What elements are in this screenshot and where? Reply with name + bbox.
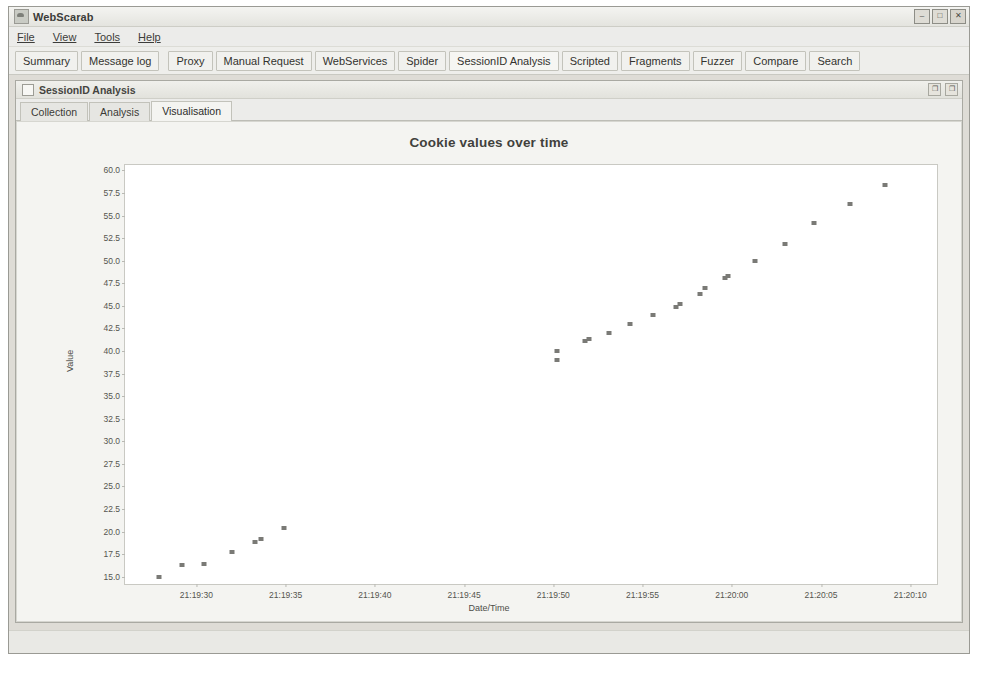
data-point [258,537,263,541]
data-point [697,292,702,296]
data-point [752,259,757,263]
tab-search[interactable]: Search [809,51,860,71]
y-axis-tick: 42.5 [103,323,120,333]
chart-panel: Cookie values over time Value Date/Time … [16,121,962,622]
x-axis-tick: 21:19:55 [626,590,659,600]
x-axis-tick: 21:19:40 [358,590,391,600]
y-axis-tick: 17.5 [103,549,120,559]
window-controls: – □ ✕ [914,9,966,24]
y-axis-tick: 15.0 [103,572,120,582]
tab-fuzzer[interactable]: Fuzzer [693,51,743,71]
internal-frame-title-bar: SessionID Analysis ❐ ❐ [16,81,962,99]
x-axis-tick: 21:20:10 [894,590,927,600]
frame-icon [22,84,34,96]
y-axis-tick: 60.0 [103,165,120,175]
y-axis-tick: 27.5 [103,459,120,469]
data-point [726,274,731,278]
y-axis-tick: 25.0 [103,481,120,491]
menu-bar: File View Tools Help [9,27,969,47]
data-point [606,331,611,335]
title-bar: WebScarab – □ ✕ [9,7,969,27]
x-axis-tick: 21:19:50 [537,590,570,600]
tab-proxy[interactable]: Proxy [168,51,212,71]
data-point [628,322,633,326]
frame-maximize-button[interactable]: ❐ [945,83,958,96]
x-axis-tick: 21:20:00 [715,590,748,600]
data-point [554,358,559,362]
data-point [703,286,708,290]
menu-file-label: File [17,31,35,43]
internal-frame-title: SessionID Analysis [39,84,135,96]
tab-fragments[interactable]: Fragments [621,51,690,71]
tab-spider[interactable]: Spider [398,51,446,71]
y-axis-tick: 50.0 [103,256,120,266]
data-point [230,550,235,554]
chart-title: Cookie values over time [17,135,961,150]
tab-scripted[interactable]: Scripted [562,51,618,71]
minimize-button[interactable]: – [914,9,930,24]
data-point [651,313,656,317]
data-point [180,563,185,567]
y-axis-tick: 40.0 [103,346,120,356]
data-point [811,221,816,225]
y-axis-tick: 20.0 [103,527,120,537]
menu-help-label: Help [138,31,161,43]
x-axis-tick: 21:19:35 [269,590,302,600]
data-point [253,540,258,544]
tab-message-log[interactable]: Message log [81,51,159,71]
subtab-analysis[interactable]: Analysis [89,102,150,121]
y-axis-tick: 52.5 [103,233,120,243]
data-point [201,562,206,566]
tab-sessionid-analysis[interactable]: SessionID Analysis [449,51,559,71]
menu-help[interactable]: Help [136,30,163,44]
close-button[interactable]: ✕ [950,9,966,24]
screen: WebScarab – □ ✕ File View Tools Help Sum [0,0,985,688]
menu-tools[interactable]: Tools [92,30,122,44]
window-title: WebScarab [33,11,94,23]
x-axis-tick: 21:20:05 [804,590,837,600]
y-axis-label: Value [65,350,75,372]
main-tab-strip: Summary Message log Proxy Manual Request… [9,47,969,75]
data-point [156,575,161,579]
menu-view-label: View [53,31,77,43]
tab-compare[interactable]: Compare [745,51,806,71]
data-point [847,202,852,206]
x-axis-tick: 21:19:45 [448,590,481,600]
data-point [678,302,683,306]
y-axis-tick: 57.5 [103,188,120,198]
subtab-visualisation[interactable]: Visualisation [151,101,232,121]
data-point [587,337,592,341]
y-axis-tick: 47.5 [103,278,120,288]
y-axis-tick: 30.0 [103,436,120,446]
y-axis-tick: 55.0 [103,211,120,221]
desktop-pane: SessionID Analysis ❐ ❐ Collection Analys… [9,75,969,630]
x-axis-label: Date/Time [17,603,961,613]
menu-view[interactable]: View [51,30,79,44]
tab-summary[interactable]: Summary [15,51,78,71]
maximize-button[interactable]: □ [932,9,948,24]
menu-tools-label: Tools [94,31,120,43]
menu-file[interactable]: File [15,30,37,44]
internal-frame-controls: ❐ ❐ [928,83,958,96]
status-bar [9,630,969,653]
data-point [783,242,788,246]
tab-webservices[interactable]: WebServices [315,51,396,71]
sub-tab-strip: Collection Analysis Visualisation [16,99,962,121]
plot-area: 60.057.555.052.550.047.545.042.540.037.5… [124,164,938,585]
subtab-collection[interactable]: Collection [20,102,88,121]
x-axis-tick: 21:19:30 [180,590,213,600]
y-axis-tick: 22.5 [103,504,120,514]
application-window: WebScarab – □ ✕ File View Tools Help Sum [8,6,970,654]
tab-manual-request[interactable]: Manual Request [216,51,312,71]
scarab-icon [14,9,29,24]
y-axis-tick: 35.0 [103,391,120,401]
frame-restore-button[interactable]: ❐ [928,83,941,96]
minimize-icon: – [915,10,929,23]
close-icon: ✕ [951,10,965,23]
y-axis-tick: 32.5 [103,414,120,424]
maximize-icon: □ [933,10,947,23]
data-point [281,526,286,530]
y-axis-tick: 37.5 [103,369,120,379]
internal-frame-sessionid-analysis: SessionID Analysis ❐ ❐ Collection Analys… [15,80,963,623]
data-point [554,349,559,353]
